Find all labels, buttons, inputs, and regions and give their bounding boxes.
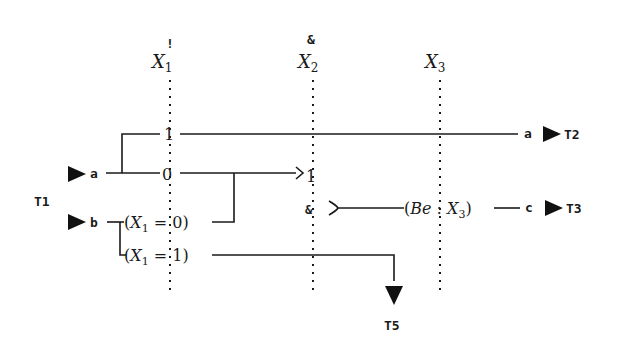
column-x3-label: X3 [423, 51, 445, 75]
condition-x1-eq-0-label: (X1 = 0) [124, 213, 189, 235]
column-x2: & X2 [296, 32, 318, 290]
column-x1-label: X1 [150, 51, 172, 75]
petri-flow-diagram: ! X1 & X2 X3 T1 a 1 a T2 0 1 b [0, 0, 621, 353]
output-t5-label: T5 [384, 318, 400, 333]
output-t3-arrow-icon [545, 200, 563, 216]
branch-split-a [122, 134, 160, 173]
input-b-arrow-icon [68, 214, 86, 230]
output-t3-signal: c [525, 200, 533, 215]
merge-chevron-icon [296, 167, 303, 179]
node-branch-one: 1 [164, 125, 174, 144]
group-label-t1: T1 [34, 194, 50, 209]
output-t2-label: T2 [564, 127, 580, 142]
output-t2-signal: a [524, 126, 532, 141]
column-x1-mark: ! [166, 36, 174, 51]
and-join-path: & (Be : X3) c T3 [305, 199, 582, 221]
input-a-arrow-icon [68, 166, 86, 182]
condition-x1-eq-0: (X1 = 0) [124, 173, 234, 235]
column-x2-label: X2 [296, 51, 318, 75]
condition-x1-eq-1: (X1 = 1) T5 [124, 246, 403, 333]
branch-one-path: 1 a T2 [164, 125, 580, 144]
output-t5-arrow-icon [385, 286, 403, 305]
input-b-label: b [90, 215, 98, 230]
node-be-x3: (Be : X3) [404, 199, 472, 221]
column-x2-mark: & [307, 32, 315, 47]
output-t3-label: T3 [566, 201, 582, 216]
node-branch-zero: 0 [162, 165, 172, 184]
node-merge-one: 1 [306, 167, 316, 186]
condition-x1-eq-1-label: (X1 = 1) [124, 246, 189, 268]
input-a: a [68, 134, 160, 182]
input-a-label: a [90, 166, 98, 181]
and-join-mark: & [305, 203, 313, 217]
output-t2-arrow-icon [543, 126, 561, 142]
join-bracket-icon [329, 201, 338, 215]
branch-zero-path: 0 1 [162, 165, 316, 186]
column-x3: X3 [423, 51, 445, 290]
input-b: b [68, 214, 126, 255]
